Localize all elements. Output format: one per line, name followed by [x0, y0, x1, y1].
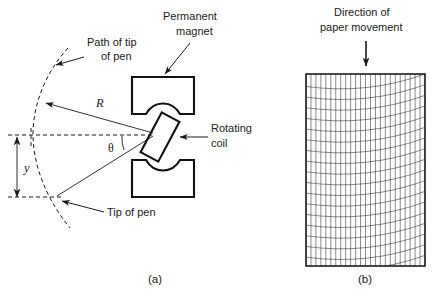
theta-angle-arc	[122, 136, 124, 150]
paper-direction-label-line1: Direction of	[334, 6, 391, 18]
panel-a-group: y R θ Path of tip of pen	[8, 10, 252, 285]
path-of-tip-label-line2: of pen	[101, 50, 132, 62]
figure-container: y R θ Path of tip of pen	[0, 0, 436, 300]
path-of-tip-leader-line	[56, 57, 84, 65]
panel-b-caption: (b)	[358, 273, 372, 285]
deflection-label-y: y	[22, 161, 30, 175]
paper-direction-label-line2: paper movement	[320, 21, 403, 33]
radius-line-to-pen-tip	[57, 136, 153, 196]
path-of-tip-label-line1: Path of tip	[87, 36, 137, 48]
panel-a-caption: (a)	[148, 273, 162, 285]
figure-svg-canvas: y R θ Path of tip of pen	[0, 0, 436, 300]
permanent-magnet-leader-line	[165, 43, 190, 74]
angle-label-theta: θ	[108, 141, 114, 155]
permanent-magnet-label-line1: Permanent	[163, 10, 217, 22]
tip-of-pen-label: Tip of pen	[107, 206, 156, 218]
permanent-magnet-label-line2: magnet	[176, 25, 213, 37]
rotating-coil-body	[141, 112, 180, 161]
permanent-magnet-lower	[132, 160, 194, 197]
rotating-coil-label-line1: Rotating	[211, 122, 252, 134]
pen-tip-path-arc	[33, 48, 70, 228]
rotating-coil-label-line2: coil	[211, 137, 228, 149]
panel-b-group: Direction of paper movement (b)	[306, 6, 425, 285]
radius-label-R: R	[95, 96, 104, 110]
permanent-magnet-upper	[132, 77, 194, 114]
rotating-coil-group	[141, 112, 180, 161]
tip-of-pen-leader-line	[62, 201, 104, 212]
